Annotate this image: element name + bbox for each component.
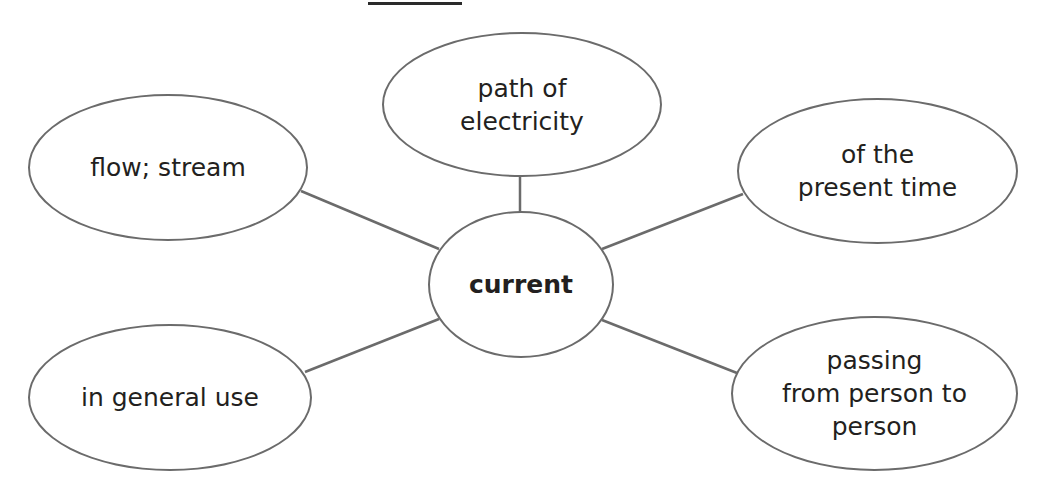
connector-upper-right xyxy=(602,194,743,249)
word-web-diagram: path of electricity flow; stream of the … xyxy=(0,0,1044,498)
center-label: current xyxy=(469,268,573,301)
connector-lower-right xyxy=(602,320,737,373)
node-label: flow; stream xyxy=(90,151,245,184)
node-label: in general use xyxy=(81,381,259,414)
node-lower-left: in general use xyxy=(28,324,312,471)
node-center: current xyxy=(428,211,614,358)
node-upper-left: flow; stream xyxy=(28,94,308,241)
node-top: path of electricity xyxy=(382,32,662,177)
node-label: passing from person to person xyxy=(782,344,967,443)
connector-upper-left xyxy=(301,191,439,249)
node-upper-right: of the present time xyxy=(737,98,1018,244)
node-label: path of electricity xyxy=(460,72,584,138)
node-lower-right: passing from person to person xyxy=(731,316,1018,471)
connector-lower-left xyxy=(305,319,439,372)
node-label: of the present time xyxy=(798,138,957,204)
